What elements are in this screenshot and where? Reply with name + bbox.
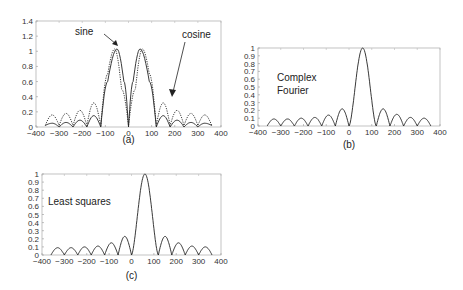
annotation-cosine: cosine: [182, 29, 211, 40]
y-tick-label: 0.8: [28, 186, 40, 195]
x-tick-label: −300: [272, 128, 291, 137]
y-tick-label: 0.3: [244, 99, 256, 108]
y-tick-label: 0.4: [28, 219, 40, 228]
y-tick-label: 0.5: [244, 83, 256, 92]
y-tick-label: 0.9: [28, 178, 40, 187]
x-tick-label: 100: [145, 129, 159, 138]
x-tick-label: −300: [55, 257, 74, 266]
chart-caption: (a): [122, 134, 134, 145]
x-tick-label: 100: [365, 128, 379, 137]
y-tick-label: 0: [35, 251, 40, 260]
y-tick-label: 1: [29, 47, 34, 56]
x-tick-label: 300: [191, 129, 205, 138]
y-tick-label: 0.6: [28, 202, 40, 211]
x-tick-label: 300: [192, 257, 206, 266]
series-least-squares: [51, 174, 212, 255]
chart-label: Complex: [277, 72, 316, 83]
y-tick-label: 0.8: [22, 62, 34, 71]
x-tick-label: 400: [214, 257, 228, 266]
y-tick-label: 0.2: [28, 235, 40, 244]
x-tick-label: −200: [294, 128, 313, 137]
y-tick-label: 0.5: [28, 211, 40, 220]
axes-frame: [42, 174, 221, 255]
chart-caption: (b): [343, 139, 355, 150]
annotation-sine: sine: [75, 26, 94, 37]
chart-label: Least squares: [48, 196, 111, 207]
x-tick-label: 0: [347, 128, 352, 137]
y-tick-label: 0.6: [22, 78, 34, 87]
y-tick-label: 0.4: [22, 93, 34, 102]
series-cosine: [45, 49, 212, 127]
arrow-cosine: [173, 42, 185, 92]
x-tick-label: −200: [73, 129, 92, 138]
y-tick-label: 0.4: [244, 91, 256, 100]
y-tick-label: 1.4: [22, 17, 34, 26]
chart-b-complex-fourier: −400−300−200−100010020030040000.10.20.30…: [244, 44, 447, 150]
y-tick-label: 0.1: [28, 243, 40, 252]
y-tick-label: 0.7: [244, 67, 256, 76]
y-tick-label: 0.6: [244, 75, 256, 84]
y-tick-label: 0.7: [28, 194, 40, 203]
x-tick-label: −300: [50, 129, 69, 138]
x-tick-label: 100: [147, 257, 161, 266]
figure: −400−300−200−100010020030040000.20.40.60…: [0, 0, 463, 290]
chart-a-sine-cosine: −400−300−200−100010020030040000.20.40.60…: [22, 17, 228, 145]
y-tick-label: 1.2: [22, 32, 34, 41]
x-tick-label: 0: [129, 257, 134, 266]
x-tick-label: 200: [388, 128, 402, 137]
series-sine: [45, 49, 212, 126]
y-tick-label: 0: [29, 123, 34, 132]
y-tick-label: 0.3: [28, 227, 40, 236]
y-tick-label: 1: [35, 170, 40, 179]
x-tick-label: 400: [433, 128, 447, 137]
y-tick-label: 0: [251, 122, 256, 131]
x-tick-label: −100: [100, 257, 119, 266]
y-tick-label: 0.2: [244, 106, 256, 115]
x-tick-label: 400: [214, 129, 228, 138]
y-tick-label: 0.1: [244, 114, 256, 123]
chart-label: Fourier: [277, 85, 309, 96]
y-tick-label: 0.8: [244, 60, 256, 69]
x-tick-label: 300: [411, 128, 425, 137]
chart-caption: (c): [126, 270, 138, 281]
x-tick-label: −100: [96, 129, 115, 138]
chart-c-least-squares: −400−300−200−100010020030040000.10.20.30…: [28, 170, 228, 281]
y-tick-label: 1: [251, 44, 256, 53]
y-tick-label: 0.9: [244, 52, 256, 61]
x-tick-label: −200: [78, 257, 97, 266]
y-tick-label: 0.2: [22, 108, 34, 117]
x-tick-label: 200: [170, 257, 184, 266]
x-tick-label: −100: [317, 128, 336, 137]
x-tick-label: 200: [168, 129, 182, 138]
